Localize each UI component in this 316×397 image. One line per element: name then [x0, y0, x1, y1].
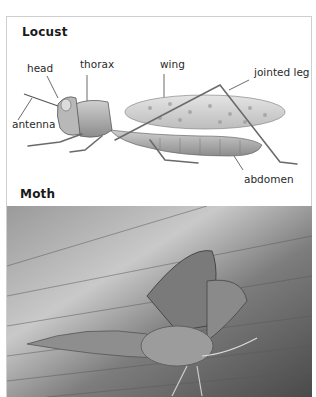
label-jointed-leg: jointed leg: [254, 66, 310, 78]
thorax-shape: [75, 100, 112, 137]
wing-shape: [125, 95, 285, 129]
moth-title: Moth: [20, 187, 55, 201]
locust-illustration: [0, 0, 316, 200]
label-wing: wing: [160, 58, 185, 70]
antenna-shape: [24, 94, 58, 106]
label-abdomen: abdomen: [244, 173, 294, 185]
label-thorax: thorax: [80, 58, 114, 70]
abdomen-shape: [110, 130, 262, 156]
label-antenna: antenna: [12, 118, 55, 130]
moth-photo: [7, 206, 312, 397]
label-head: head: [27, 62, 53, 74]
